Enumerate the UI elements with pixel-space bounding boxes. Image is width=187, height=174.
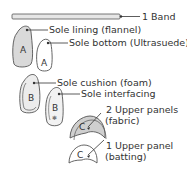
sole-bottom-label: Sole bottom (Ultrasuede)	[69, 38, 187, 48]
upper-panel-batting-label-1: 1 Upper panel	[106, 141, 173, 151]
letter-c-fabric: C	[79, 122, 85, 132]
sole-interfacing-label: Sole interfacing	[81, 89, 156, 99]
sole-cushion-label: Sole cushion (foam)	[57, 78, 152, 88]
letter-b-cushion: B	[28, 93, 34, 103]
band-piece	[12, 14, 120, 19]
letter-a-bottom: A	[41, 58, 47, 68]
upper-panel-batting-label-2: (batting)	[105, 152, 146, 162]
letter-a-lining: A	[20, 45, 26, 55]
letter-b-interfacing: B	[52, 103, 58, 113]
band-label: 1 Band	[142, 12, 175, 22]
upper-panels-fabric-label-2: (fabric)	[105, 116, 139, 126]
letter-c-batting: C	[77, 150, 83, 160]
upper-panels-fabric-label-1: 2 Upper panels	[106, 105, 178, 115]
upper-panels-fabric-piece	[70, 116, 105, 138]
svg-text:✱: ✱	[52, 114, 57, 121]
sole-lining-label: Sole lining (flannel)	[49, 25, 141, 35]
